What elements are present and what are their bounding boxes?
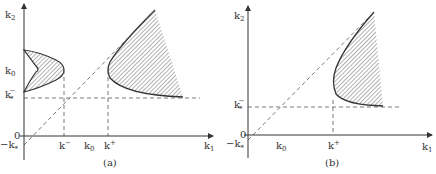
panel-a: k2 k1 k0 k*− 0 −k* k− k0 k+ (a) (0, 4, 215, 168)
x-axis-label: k1 (204, 140, 215, 153)
y-tick-minus-k-star: −k* (0, 139, 18, 153)
figure: k2 k1 k0 k*− 0 −k* k− k0 k+ (a) k2 k1 k*… (0, 0, 436, 174)
x-tick-k-plus: k+ (328, 139, 340, 151)
y-axis-label: k2 (5, 9, 16, 22)
y-tick-k0: k0 (5, 65, 16, 78)
right-shaded-region (108, 10, 183, 97)
x-tick-k-plus: k+ (104, 139, 116, 151)
y-axis-label: k2 (234, 10, 245, 23)
left-shaded-region (24, 50, 64, 92)
x-tick-k-minus: k− (59, 139, 71, 151)
caption-a: (a) (103, 157, 117, 168)
caption-b: (b) (325, 157, 339, 168)
y-tick-k-star-minus: k*− (5, 87, 16, 103)
y-tick-zero: 0 (240, 129, 246, 140)
x-tick-k0: k0 (84, 140, 95, 153)
y-tick-minus-k-star: −k* (226, 138, 244, 152)
x-tick-k0: k0 (276, 140, 287, 153)
panel-b: k2 k1 k*− 0 −k* k0 k+ (b) (226, 6, 433, 168)
shaded-region (334, 12, 384, 106)
y-tick-zero: 0 (14, 130, 20, 141)
y-tick-k-star-minus: k*− (234, 97, 245, 113)
x-axis-label: k1 (422, 141, 433, 154)
